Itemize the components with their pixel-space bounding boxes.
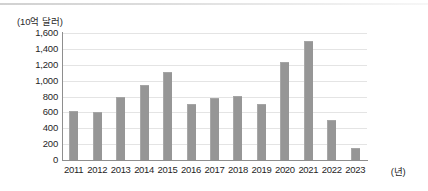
bar [140, 85, 149, 160]
bar [187, 104, 196, 160]
bar [304, 41, 313, 160]
x-axis-tick-label: 2019 [251, 164, 271, 175]
chart-screenshot: (10억 달러) 1,6001,4001,2001,00080060040020… [0, 0, 428, 191]
bar [351, 148, 360, 160]
y-axis-tick-labels: 1,6001,4001,2001,0008006004002000 [0, 0, 58, 191]
y-axis-tick-label: 800 [43, 91, 58, 102]
x-axis-tick-label: 2018 [228, 164, 248, 175]
x-axis-tick-label: 2020 [275, 164, 295, 175]
x-axis-tick-label: 2021 [298, 164, 318, 175]
bar [163, 72, 172, 160]
y-axis-tick-label: 1,400 [35, 43, 58, 54]
y-axis-tick-label: 200 [43, 138, 58, 149]
bar [116, 97, 125, 160]
x-axis-tick-label: 2015 [158, 164, 178, 175]
x-axis-tick-label: 2017 [205, 164, 225, 175]
y-axis-tick-label: 1,200 [35, 59, 58, 70]
x-axis-tick-label: 2014 [134, 164, 154, 175]
x-axis-tick-label: 2022 [322, 164, 342, 175]
x-axis-tick-label: 2016 [181, 164, 201, 175]
x-axis-tick-label: 2013 [111, 164, 131, 175]
y-axis-tick-label: 600 [43, 106, 58, 117]
x-axis-line [62, 160, 368, 161]
bar [69, 111, 78, 160]
bar-series [62, 33, 367, 160]
top-divider [0, 3, 428, 5]
bar [327, 120, 336, 160]
x-axis-tick-label: 2023 [345, 164, 365, 175]
y-axis-tick-label: 1,000 [35, 75, 58, 86]
bar [257, 104, 266, 160]
bar [280, 62, 289, 160]
bar [210, 98, 219, 160]
x-axis-tick-label: 2012 [87, 164, 107, 175]
y-axis-tick-label: 0 [53, 154, 58, 165]
y-axis-tick-label: 1,600 [35, 27, 58, 38]
x-axis-tick-label: 2011 [64, 164, 83, 175]
bar [233, 96, 242, 160]
bar [93, 112, 102, 160]
x-axis-unit-label: (년) [391, 164, 406, 178]
y-axis-tick-label: 400 [43, 122, 58, 133]
